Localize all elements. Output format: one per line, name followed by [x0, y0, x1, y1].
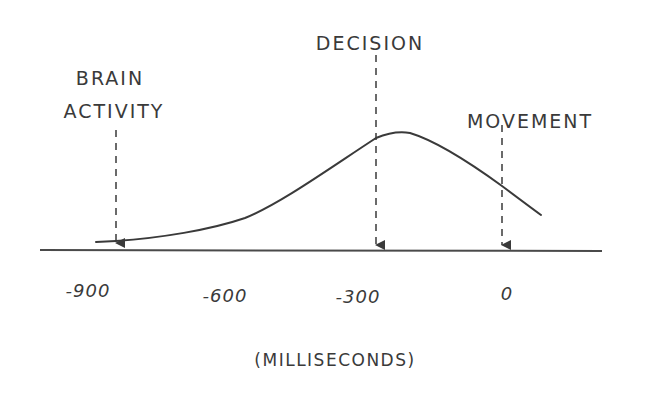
- time-axis: [40, 250, 602, 251]
- tick-label-minus-300: -300: [336, 286, 381, 307]
- tick-label-minus-900: -900: [66, 280, 111, 301]
- brain-activity-label-line1: BRAIN: [76, 67, 144, 89]
- decision-label: DECISION: [316, 32, 424, 54]
- brain-activity-curve: [96, 132, 541, 242]
- axis-unit-label: (MILLISECONDS): [254, 350, 415, 370]
- movement-label: MOVEMENT: [467, 110, 593, 132]
- tick-label-zero: 0: [501, 283, 513, 304]
- brain-activity-label-line2: ACTIVITY: [64, 100, 165, 122]
- readiness-potential-diagram: BRAIN ACTIVITY DECISION MOVEMENT -900 -6…: [0, 0, 647, 397]
- tick-label-minus-600: -600: [203, 285, 248, 306]
